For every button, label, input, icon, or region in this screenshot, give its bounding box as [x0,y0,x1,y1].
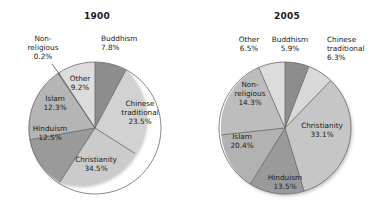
label-buddhism-name: Buddhism [101,34,137,43]
label-buddhism-value: 7.8% [101,43,120,52]
label-hinduism-name: Hinduism [268,173,302,182]
label-chinese-traditional-line1: Chinese [327,35,357,44]
label-other-name: Other [239,35,260,44]
label-islam-name: Islam [45,94,65,103]
label-other-value: 9.2% [71,83,90,92]
label-non-religious-line2: religious [28,43,59,52]
label-christianity-name: Christianity [75,155,117,164]
label-non-religious-line2: religious [235,89,266,98]
two-pie-chart-figure: 1900 [0,0,389,221]
label-chinese-traditional-value: 6.3% [327,53,346,62]
chart-title-1900: 1900 [84,11,110,21]
figure-canvas: 1900 [0,0,389,221]
chart-title-2005: 2005 [274,11,300,21]
label-buddhism-value: 5.9% [281,44,300,53]
label-christianity-value: 33.1% [310,130,333,139]
label-islam-value: 12.3% [43,103,66,112]
label-chinese-traditional-line2: traditional [327,44,364,53]
label-non-religious-line1: Non- [241,80,259,89]
label-christianity-value: 34.5% [84,164,107,173]
label-hinduism-name: Hinduism [33,124,67,133]
label-islam-name: Islam [232,132,252,141]
label-hinduism-value: 13.5% [273,182,296,191]
label-islam-value: 20.4% [230,141,253,150]
label-hinduism-value: 12.5% [38,133,61,142]
label-chinese-traditional-value: 23.5% [128,117,151,126]
label-other-value: 6.5% [240,44,259,53]
label-buddhism-name: Buddhism [272,35,308,44]
label-chinese-traditional-line2: traditional [121,108,158,117]
label-non-religious-value: 14.3% [238,98,261,107]
label-non-religious-value: 0.2% [34,52,53,61]
label-christianity-name: Christianity [301,121,343,130]
label-non-religious-line1: Non- [34,34,52,43]
label-other-name: Other [70,74,91,83]
label-chinese-traditional-line1: Chinese [125,99,155,108]
